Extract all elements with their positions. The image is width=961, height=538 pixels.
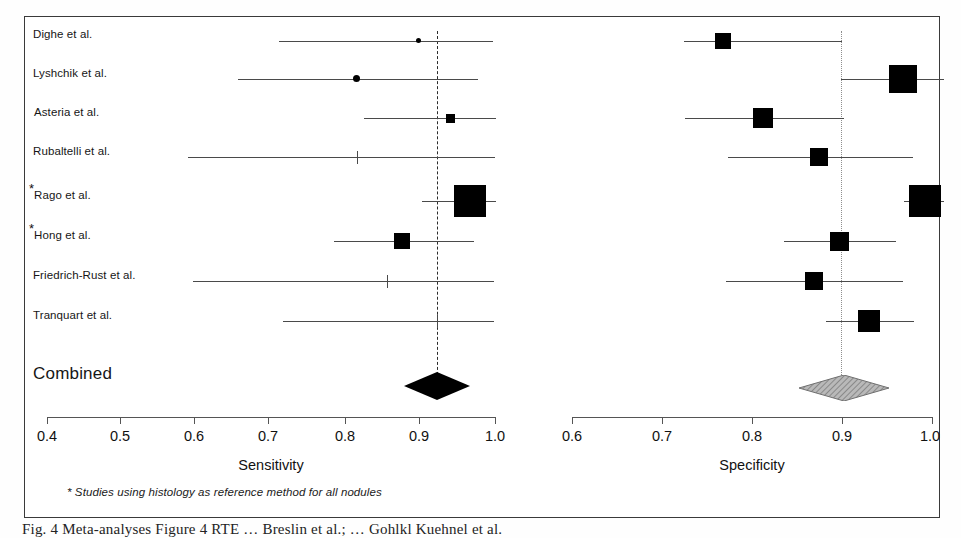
combined-diamond-specificity: [799, 375, 889, 401]
point-estimate-marker: [889, 65, 917, 93]
point-estimate-marker: [394, 233, 410, 249]
point-estimate-marker: [437, 315, 438, 328]
study-label-lyshchik: Lyshchik et al.: [33, 67, 107, 79]
point-estimate-marker: [805, 272, 823, 290]
axis-label-specificity-1: 0.7: [652, 428, 672, 444]
axis-tick: [345, 417, 346, 424]
axis-tick: [752, 417, 753, 424]
axis-sensitivity: [47, 417, 495, 418]
axis-label-sensitivity-5: 0.9: [409, 428, 429, 444]
study-label-hong: Hong et al.: [34, 229, 91, 241]
point-estimate-marker: [353, 75, 360, 82]
point-estimate-marker: [387, 275, 388, 288]
axis-tick: [842, 417, 843, 424]
point-estimate-marker: [715, 33, 731, 49]
axis-label-sensitivity-1: 0.5: [110, 428, 130, 444]
figure-caption-partial: Fig. 4 Meta-analyses Figure 4 RTE … Bres…: [22, 521, 952, 538]
study-label-asteria: Asteria et al.: [34, 106, 99, 118]
study-label-rago: Rago et al.: [34, 189, 91, 201]
ci-line: [279, 41, 493, 42]
reference-line-specificity: [841, 31, 842, 395]
plot-frame: 0.4 0.5 0.6 0.7 0.8 0.9 1.0 Sensitivity: [24, 16, 940, 518]
axis-tick: [268, 417, 269, 424]
ci-line: [684, 41, 842, 42]
point-estimate-marker: [858, 310, 880, 332]
study-label-tranquart: Tranquart et al.: [33, 309, 112, 321]
ci-line: [283, 321, 494, 322]
combined-diamond-sensitivity: [404, 372, 470, 400]
axis-title-specificity: Specificity: [719, 457, 784, 473]
axis-tick: [572, 417, 573, 424]
ci-line: [188, 157, 495, 158]
point-estimate-marker: [753, 108, 773, 128]
study-label-dighe: Dighe et al.: [33, 28, 92, 40]
figure-footnote: * Studies using histology as reference m…: [67, 486, 382, 498]
axis-tick: [194, 417, 195, 424]
reference-line-sensitivity: [437, 31, 438, 395]
point-estimate-marker: [810, 148, 828, 166]
axis-tick: [120, 417, 121, 424]
point-estimate-marker: [416, 38, 421, 43]
ci-line: [364, 118, 496, 119]
study-label-friedrich-rust: Friedrich-Rust et al.: [33, 269, 135, 281]
axis-label-sensitivity-6: 1.0: [485, 428, 505, 444]
point-estimate-marker: [357, 151, 358, 164]
point-estimate-marker: [909, 185, 941, 217]
point-estimate-marker: [454, 185, 486, 217]
axis-label-sensitivity-3: 0.7: [258, 428, 278, 444]
axis-tick: [662, 417, 663, 424]
axis-label-sensitivity-4: 0.8: [335, 428, 355, 444]
axis-label-specificity-2: 0.8: [742, 428, 762, 444]
summary-row-label: Combined: [33, 364, 112, 384]
axis-tick: [47, 417, 48, 424]
axis-tick: [495, 417, 496, 424]
axis-label-specificity-3: 0.9: [832, 428, 852, 444]
point-estimate-marker: [446, 114, 455, 123]
axis-tick: [932, 417, 933, 424]
ci-line: [193, 281, 494, 282]
axis-tick: [419, 417, 420, 424]
point-estimate-marker: [830, 232, 849, 251]
forest-plot-figure: 0.4 0.5 0.6 0.7 0.8 0.9 1.0 Sensitivity: [0, 0, 961, 538]
axis-title-sensitivity: Sensitivity: [238, 457, 303, 473]
axis-label-specificity-4: 1.0: [920, 428, 940, 444]
axis-label-sensitivity-0: 0.4: [37, 428, 57, 444]
axis-label-specificity-0: 0.6: [562, 428, 582, 444]
axis-label-sensitivity-2: 0.6: [184, 428, 204, 444]
study-label-rubaltelli: Rubaltelli et al.: [33, 145, 110, 157]
